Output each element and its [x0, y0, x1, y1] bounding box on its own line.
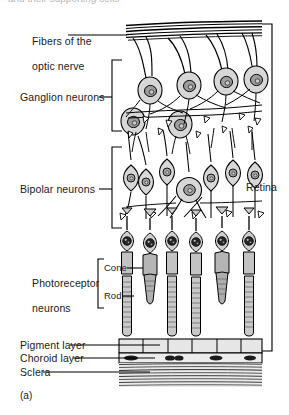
- label-retina: Retina: [246, 181, 277, 194]
- bipolar-cell-7: [177, 178, 202, 203]
- pigment-layer: [119, 339, 262, 353]
- label-optic-nerve-fibers: Fibers of the optic nerve: [20, 22, 92, 85]
- label-sclera: Sclera: [20, 366, 50, 379]
- photoreceptor-group: [121, 207, 256, 336]
- photoreceptor-rod-3: [190, 210, 203, 336]
- ganglion-cell-2: [177, 72, 201, 99]
- ganglion-cell-1: [138, 77, 162, 104]
- label-ganglion-neurons: Ganglion neurons: [20, 91, 105, 104]
- retina-diagram-figure: and their supporting cells: [0, 0, 289, 415]
- bipolar-cell-2: [160, 159, 175, 185]
- label-rod: Rod: [104, 290, 121, 301]
- figure-caption: (a): [20, 390, 32, 401]
- photoreceptor-rod-2: [166, 208, 179, 336]
- label-bipolar-neurons: Bipolar neurons: [20, 183, 95, 196]
- ganglion-cell-6: [168, 111, 192, 138]
- label-pigment-layer: Pigment layer: [20, 339, 86, 352]
- photoreceptor-cone-1: [143, 209, 157, 304]
- photoreceptor-cone-2: [215, 207, 229, 304]
- label-choroid-layer: Choroid layer: [20, 352, 84, 365]
- bipolar-cell-1: [124, 165, 139, 191]
- label-cone: Cone: [104, 262, 127, 273]
- label-photoreceptor-neurons: Photoreceptor neurons: [20, 264, 99, 327]
- ganglion-neuron-group: [121, 33, 268, 154]
- sclera-layer: [119, 363, 262, 387]
- bipolar-neuron-group: [120, 130, 264, 220]
- bipolar-cell-5: [139, 169, 154, 195]
- bipolar-cell-3: [204, 165, 219, 191]
- ganglion-cell-4: [244, 66, 268, 93]
- bipolar-cell-6: [226, 160, 241, 186]
- photoreceptor-rod-4: [243, 208, 256, 336]
